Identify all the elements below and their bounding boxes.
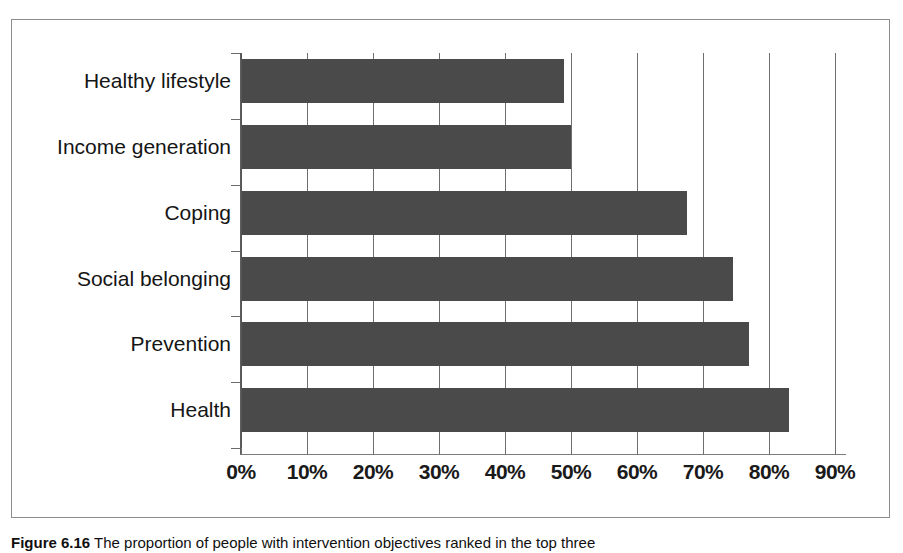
x-tick-30 [439,448,440,455]
category-label-income-generation: Income generation [57,136,231,157]
x-tick-20 [373,448,374,455]
category-label-healthy-lifestyle: Healthy lifestyle [84,70,231,91]
x-tick-label: 90% [795,460,875,484]
figure-caption-text: The proportion of people with interventi… [94,534,595,551]
y-tick-mark [231,185,240,186]
x-tick-10 [307,448,308,455]
y-tick-mark [231,119,240,120]
bar-healthy-lifestyle [242,59,564,103]
bar-prevention [242,322,749,366]
x-tick-80 [769,448,770,455]
x-tick-90 [835,448,836,455]
bar-social-belonging [242,257,733,301]
bar-chart: 0%10%20%30%40%50%60%70%80%90% Healthy li… [12,20,891,519]
y-tick-mark [231,251,240,252]
bar-income-generation [242,125,571,169]
category-label-coping: Coping [164,202,231,223]
figure-caption: Figure 6.16 The proportion of people wit… [11,534,891,553]
x-tick-50 [571,448,572,455]
y-tick-mark [231,448,240,449]
x-tick-60 [637,448,638,455]
figure-frame: 0%10%20%30%40%50%60%70%80%90% Healthy li… [11,19,890,518]
bar-health [242,388,789,432]
figure-caption-label: Figure 6.16 [11,534,90,551]
y-tick-mark [231,382,240,383]
x-tick-0 [241,448,242,455]
gridline-90 [835,53,836,448]
category-label-social-belonging: Social belonging [77,268,231,289]
category-label-prevention: Prevention [131,333,231,354]
x-axis-line [240,454,846,455]
bar-coping [242,191,687,235]
category-label-health: Health [170,399,231,420]
x-tick-70 [703,448,704,455]
x-tick-40 [505,448,506,455]
y-tick-mark [231,316,240,317]
y-tick-mark [231,53,240,54]
